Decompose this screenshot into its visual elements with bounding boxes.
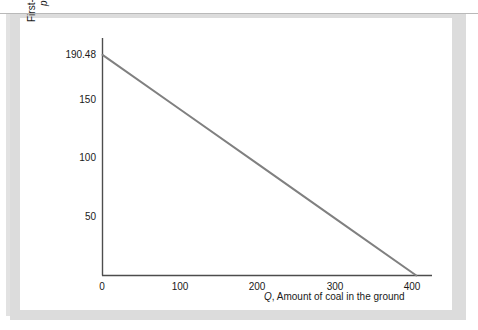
y-axis-title-line2: p1, $ per pound xyxy=(38,0,54,22)
y-axis-title: First-year price of coal, p1, $ per poun… xyxy=(26,0,54,22)
y-tick-label-150: 150 xyxy=(46,95,96,105)
x-axis-symbol: Q xyxy=(264,291,272,302)
y-tick-label-50: 50 xyxy=(46,212,96,222)
y-tick-label-100: 100 xyxy=(46,153,96,163)
x-tick-label-100: 100 xyxy=(160,282,200,292)
x-axis-title: Q, Amount of coal in the ground xyxy=(264,292,405,302)
plot-area xyxy=(20,18,452,310)
y-axis-title-line1: First-year price of coal, xyxy=(26,0,38,22)
y-tick-label-190: 190.48 xyxy=(46,50,96,60)
y-axis-symbol: p xyxy=(38,0,49,6)
x-tick-label-0: 0 xyxy=(82,282,122,292)
x-axis-title-rest: , Amount of coal in the ground xyxy=(272,291,405,302)
demand-curve-line xyxy=(103,55,417,276)
chart-panel: 190.48 150 100 50 0 100 200 300 400 xyxy=(20,18,452,310)
figure-root: 190.48 150 100 50 0 100 200 300 400 Firs… xyxy=(0,0,478,330)
